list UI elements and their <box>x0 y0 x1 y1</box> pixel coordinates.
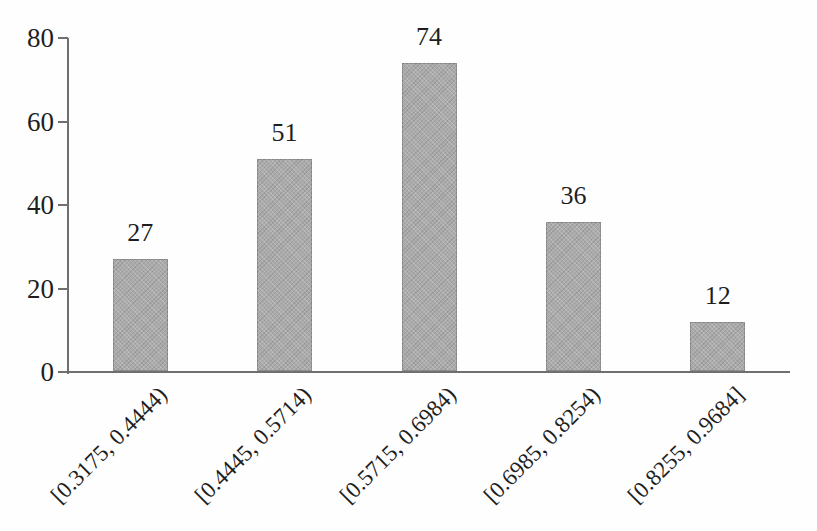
y-axis-tick <box>58 37 68 39</box>
y-axis-tick-label: 60 <box>0 106 54 138</box>
y-axis-line <box>67 38 69 374</box>
bar-value-label: 74 <box>379 23 479 51</box>
bar <box>546 222 601 371</box>
bar-value-label: 27 <box>90 219 190 247</box>
y-axis-tick-label: 20 <box>0 273 54 305</box>
bar <box>690 322 745 371</box>
plot-area: 02040608027[0.3175, 0.4444)51[0.4445, 0.… <box>0 0 817 531</box>
y-axis-tick <box>58 121 68 123</box>
bar <box>402 63 457 371</box>
bar-chart: 02040608027[0.3175, 0.4444)51[0.4445, 0.… <box>0 0 817 531</box>
x-axis-tick-label: [0.8255, 0.9684] <box>623 382 750 509</box>
y-axis-tick-label: 40 <box>0 189 54 221</box>
bar-value-label: 36 <box>523 182 623 210</box>
y-axis-tick <box>58 371 68 373</box>
bar <box>257 159 312 371</box>
bar-value-label: 12 <box>668 282 768 310</box>
y-axis-tick <box>58 204 68 206</box>
x-axis-tick-label: [0.4445, 0.5714) <box>190 382 317 509</box>
x-axis-line <box>67 371 790 373</box>
y-axis-tick-label: 0 <box>0 356 54 388</box>
x-axis-tick-label: [0.6985, 0.8254) <box>479 382 606 509</box>
bar <box>113 259 168 371</box>
y-axis-tick-label: 80 <box>0 22 54 54</box>
y-axis-tick <box>58 288 68 290</box>
x-axis-tick-label: [0.5715, 0.6984) <box>335 382 462 509</box>
x-axis-tick-label: [0.3175, 0.4444) <box>46 382 173 509</box>
bar-value-label: 51 <box>235 119 335 147</box>
